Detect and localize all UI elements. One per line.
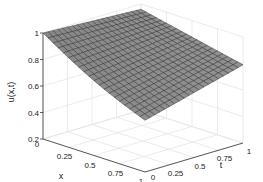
t-tick-label: 0.5 [194, 162, 206, 171]
x-axis-label: x [59, 171, 64, 181]
grid-line [117, 117, 219, 150]
t-tick-label: 0.25 [168, 169, 184, 178]
t-tick-label: 1 [247, 147, 252, 156]
surface-plot: 0.20.40.60.8100.250.50.75100.250.50.751 … [0, 0, 263, 182]
grid-line [92, 125, 194, 158]
t-tick-label: 0 [151, 173, 156, 182]
x-tick-label: 1 [139, 177, 144, 182]
grid-line [120, 135, 218, 164]
z-axis-label: u(x,t) [6, 82, 16, 103]
z-tick-label: 0.8 [28, 56, 40, 65]
z-tick-label: 0.4 [28, 109, 40, 118]
x-tick-label: 0.75 [108, 169, 124, 178]
z-tick-label: 0.6 [28, 82, 40, 91]
x-tick-label: 0.5 [84, 161, 96, 170]
x-tick-label: 0 [35, 140, 40, 149]
z-tick-label: 1 [35, 29, 40, 38]
x-tick-label: 0.25 [57, 152, 73, 161]
